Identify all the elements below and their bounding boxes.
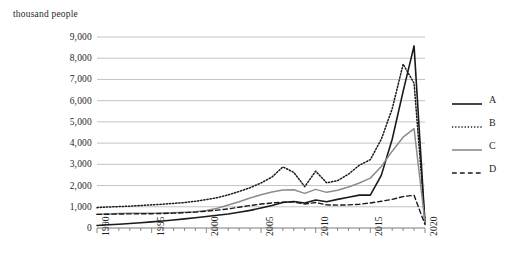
series-lines bbox=[97, 46, 425, 226]
plot-area bbox=[0, 0, 519, 273]
series-line-a bbox=[97, 46, 425, 226]
legend-swatch-a bbox=[452, 95, 482, 105]
legend-item-d[interactable]: D bbox=[452, 157, 514, 180]
legend-item-b[interactable]: B bbox=[452, 111, 514, 134]
legend-label-d: D bbox=[489, 164, 496, 174]
legend: ABCD bbox=[452, 88, 514, 180]
legend-label-a: A bbox=[489, 95, 496, 105]
legend-swatch-d bbox=[452, 164, 482, 174]
gridlines bbox=[97, 37, 425, 207]
x-axis-ticks bbox=[97, 228, 425, 233]
series-line-b bbox=[97, 64, 425, 221]
line-chart: thousand people 01,0002,0003,0004,0005,0… bbox=[0, 0, 519, 273]
legend-swatch-b bbox=[452, 118, 482, 128]
legend-label-b: B bbox=[489, 118, 496, 128]
series-line-d bbox=[97, 195, 425, 224]
legend-swatch-c bbox=[452, 141, 482, 151]
legend-item-c[interactable]: C bbox=[452, 134, 514, 157]
legend-item-a[interactable]: A bbox=[452, 88, 514, 111]
legend-label-c: C bbox=[489, 141, 496, 151]
